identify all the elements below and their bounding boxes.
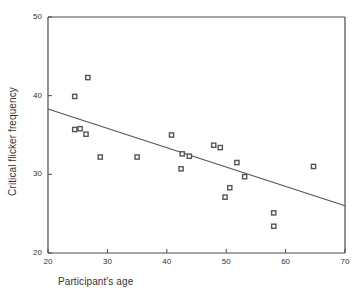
data-point-marker: [135, 155, 139, 159]
data-point-marker: [235, 160, 239, 164]
data-point-marker: [272, 211, 276, 215]
data-point-marker: [78, 127, 82, 131]
x-tick-label: 20: [38, 257, 58, 266]
data-point-marker: [187, 154, 191, 158]
data-point-marker: [98, 155, 102, 159]
x-tick-label: 70: [335, 257, 355, 266]
data-point-marker: [73, 94, 77, 98]
regression-line-group: [48, 109, 345, 206]
plot-frame: [48, 17, 345, 253]
data-point-marker: [311, 164, 315, 168]
data-point-marker: [179, 167, 183, 171]
x-tick-label: 40: [157, 257, 177, 266]
data-point-marker: [272, 224, 276, 228]
data-point-marker: [212, 143, 216, 147]
data-point-marker: [243, 175, 247, 179]
x-tick-label: 30: [97, 257, 117, 266]
x-axis-title: Participant's age: [58, 276, 133, 287]
y-axis-title: Critical flicker frequency: [7, 67, 18, 217]
y-tick-label: 50: [24, 12, 42, 21]
data-point-marker: [73, 127, 77, 131]
data-point-marker: [86, 75, 90, 79]
x-tick-label: 60: [276, 257, 296, 266]
scatter-plot-figure: 20304050607050403020 Critical flicker fr…: [0, 0, 361, 299]
y-tick-label: 20: [24, 248, 42, 257]
data-point-marker: [169, 133, 173, 137]
data-point-marker: [228, 186, 232, 190]
x-tick-label: 50: [216, 257, 236, 266]
data-points-group: [73, 75, 316, 228]
y-tick-label: 40: [24, 91, 42, 100]
y-tick-label: 30: [24, 169, 42, 178]
regression-line: [48, 109, 345, 206]
plot-canvas: [0, 0, 361, 299]
data-point-marker: [218, 145, 222, 149]
data-point-marker: [84, 132, 88, 136]
data-point-marker: [223, 195, 227, 199]
data-point-marker: [180, 152, 184, 156]
axis-ticks: [48, 17, 345, 253]
